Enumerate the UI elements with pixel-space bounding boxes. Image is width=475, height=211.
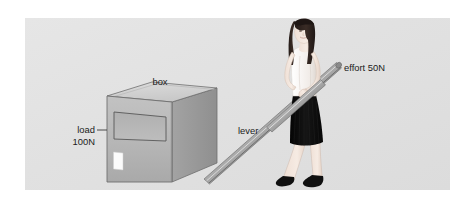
label-load-line2: 100N bbox=[73, 136, 95, 147]
box bbox=[107, 82, 217, 182]
label-lever: lever bbox=[238, 125, 258, 136]
label-load-line1: load bbox=[77, 124, 95, 135]
diagram-root: box lever effort 50N load 100N bbox=[0, 0, 475, 211]
label-box: box bbox=[152, 76, 167, 87]
label-effort: effort 50N bbox=[344, 62, 385, 73]
lever-diagram-svg: box lever effort 50N load 100N bbox=[0, 0, 475, 211]
white-sticker bbox=[114, 152, 124, 170]
scene-panel bbox=[25, 18, 450, 190]
front-panel-recess bbox=[114, 112, 166, 141]
